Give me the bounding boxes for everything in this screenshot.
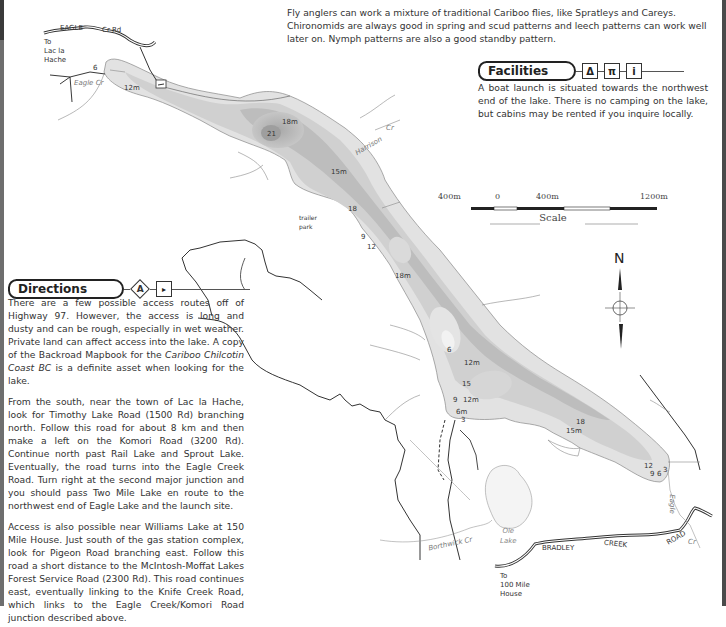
depth-label: 9 bbox=[453, 396, 457, 404]
map-label-harrison-cr: Cr bbox=[386, 124, 394, 132]
depth-label: 18m bbox=[282, 118, 298, 126]
directions-paragraph-2: From the south, near the town of Lac la … bbox=[8, 395, 244, 512]
compass-rose bbox=[605, 268, 635, 349]
depth-label: 12 bbox=[644, 462, 653, 470]
depth-label: 9 bbox=[650, 470, 654, 478]
map-label-trailer-park: trailer park bbox=[299, 213, 317, 231]
depth-label: 12 bbox=[367, 243, 376, 251]
facilities-title: Facilities bbox=[478, 61, 576, 81]
north-label: N bbox=[614, 250, 624, 266]
scale-label: 0 bbox=[495, 192, 500, 201]
intro-paragraph: Fly anglers can work a mixture of tradit… bbox=[287, 6, 717, 45]
depth-label: 15 bbox=[462, 380, 471, 388]
map-label-cr-rd: Cr Rd bbox=[102, 26, 121, 34]
depth-label: 3 bbox=[663, 466, 667, 474]
depth-label: 15m bbox=[566, 427, 582, 435]
scale-label: 400m bbox=[536, 192, 559, 201]
map-label-eagle: EAGLE bbox=[60, 24, 83, 32]
directions-text: There are a few possible access routes o… bbox=[8, 296, 244, 627]
directions-paragraph-1: There are a few possible access routes o… bbox=[8, 296, 244, 387]
map-label-to-100-mile-house: To 100 Mile House bbox=[500, 572, 530, 599]
directions-paragraph-3: Access is also possible near Williams La… bbox=[8, 520, 244, 624]
depth-label: 15m bbox=[331, 168, 347, 176]
depth-label: 18 bbox=[348, 205, 357, 213]
map-label-eagle-south: Eagle bbox=[668, 494, 676, 513]
depth-label: 6 bbox=[93, 64, 97, 72]
depth-label: 3 bbox=[461, 416, 465, 424]
scale-title: Scale bbox=[438, 212, 668, 223]
depth-label: 6 bbox=[447, 346, 451, 354]
map-label-eagle-cr: Eagle Cr bbox=[74, 79, 103, 87]
scale-label: 400m bbox=[438, 192, 461, 201]
map-label-ole-lake: Ole Lake bbox=[500, 526, 517, 546]
depth-label: 12m bbox=[463, 396, 479, 404]
depth-label: 18 bbox=[576, 418, 585, 426]
info-icon: i bbox=[626, 63, 642, 79]
depth-label: 21 bbox=[267, 130, 276, 138]
depth-label: 12m bbox=[124, 84, 140, 92]
depth-label: 12m bbox=[464, 359, 480, 367]
map-label-bradley: BRADLEY bbox=[542, 544, 574, 552]
scale-label: 1200m bbox=[640, 192, 668, 201]
map-label-to-lac-la-hache: To Lac la Hache bbox=[44, 38, 66, 65]
map-label-cr-south: Cr bbox=[688, 538, 696, 546]
depth-label: 6m bbox=[456, 408, 467, 416]
picnic-table-icon: π bbox=[604, 63, 620, 79]
depth-label: 6 bbox=[657, 470, 661, 478]
boat-launch-icon: ▸ bbox=[156, 281, 172, 297]
facilities-text: A boat launch is situated towards the no… bbox=[478, 81, 708, 120]
facilities-header: Facilities Δ π i bbox=[478, 61, 684, 81]
scale: 400m 0 400m 1200m Scale bbox=[438, 192, 668, 223]
depth-label: 9 bbox=[361, 233, 365, 241]
depth-label: 18m bbox=[395, 272, 411, 280]
campsite-icon: Δ bbox=[582, 63, 598, 79]
